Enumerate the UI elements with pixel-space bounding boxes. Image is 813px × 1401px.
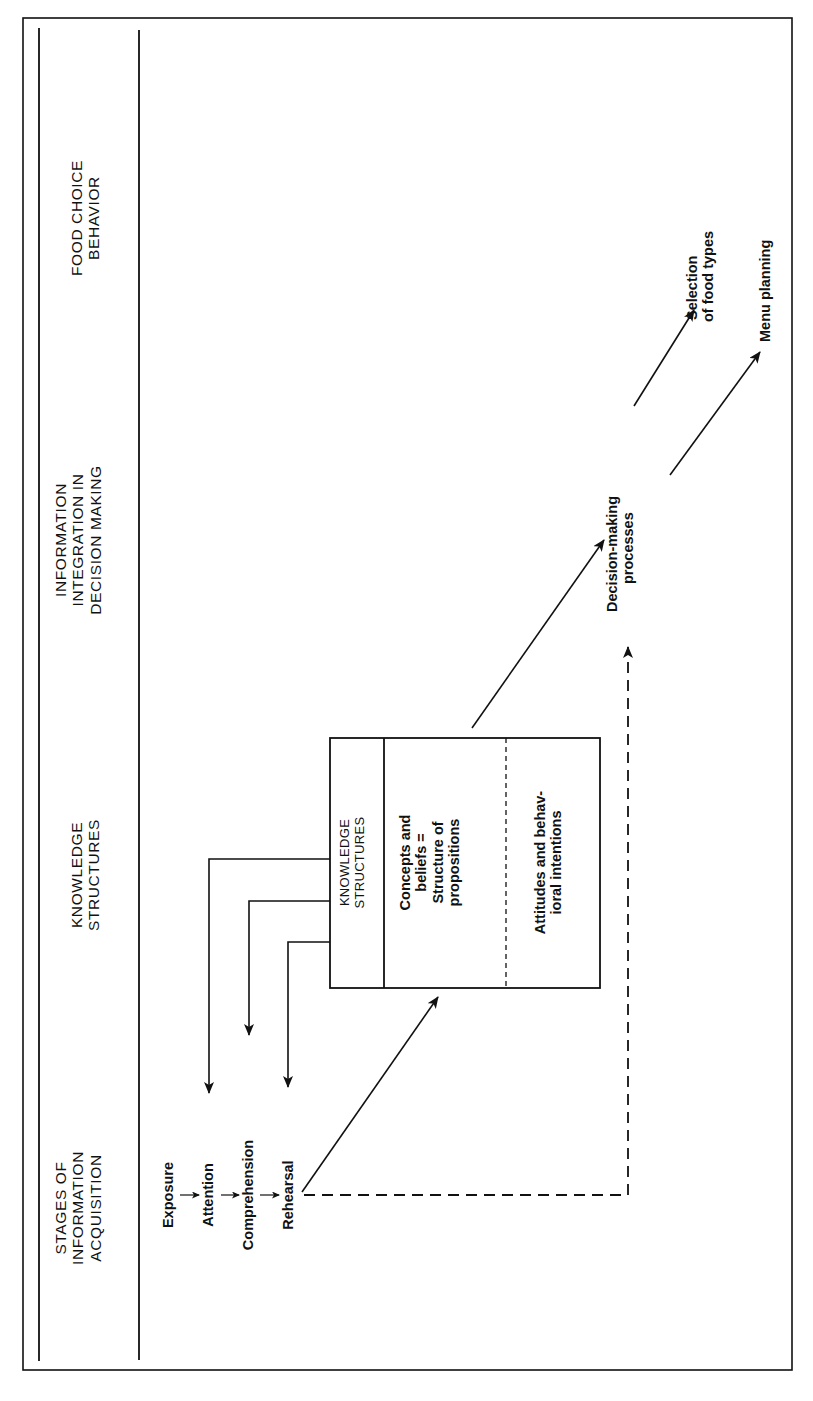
concepts-line-1: Concepts and <box>397 750 413 975</box>
feedback-arrow-comprehension <box>249 901 330 1035</box>
knowledge-box-attitudes: Attitudes and behav- ioral intentions <box>532 750 564 975</box>
knowledge-box-concepts: Concepts and beliefs = Structure of prop… <box>397 750 463 975</box>
attitudes-line-2: ioral intentions <box>548 750 564 975</box>
attitudes-line-1: Attitudes and behav- <box>532 750 548 975</box>
decision-line-2: processes <box>620 452 636 612</box>
stage-comprehension: Comprehension <box>240 1125 256 1265</box>
header-integration: INFORMATION INTEGRATION IN DECISION MAKI… <box>52 420 104 660</box>
decision-making-processes: Decision-making processes <box>604 452 636 612</box>
decision-line-1: Decision-making <box>604 452 620 612</box>
feedback-arrow-attention <box>209 859 330 1093</box>
header-knowledge-line-2: STRUCTURES <box>85 780 102 970</box>
stage-exposure-label: Exposure <box>160 1162 176 1228</box>
menu-planning-line-1: Menu planning <box>757 202 773 342</box>
header-behavior-line-1: FOOD CHOICE <box>68 118 85 318</box>
arrow-knowledge-to-decision <box>472 540 604 728</box>
header-stages-line-2: INFORMATION <box>69 1098 86 1318</box>
header-stages-line-3: ACQUISITION <box>87 1098 104 1318</box>
concepts-line-4: propositions <box>446 750 462 975</box>
knowledge-box-title: KNOWLEDGE STRUCTURES <box>338 750 367 975</box>
outcome-selection: Selection of food types <box>684 210 716 320</box>
stage-rehearsal: Rehearsal <box>280 1125 296 1265</box>
concepts-line-3: Structure of <box>430 750 446 975</box>
arrow-decision-to-menu <box>670 352 760 475</box>
stage-attention: Attention <box>200 1125 216 1265</box>
header-stages-line-1: STAGES OF <box>52 1098 69 1318</box>
concepts-line-2: beliefs = <box>413 750 429 975</box>
selection-line-1: Selection <box>684 210 700 320</box>
header-stages: STAGES OF INFORMATION ACQUISITION <box>52 1098 104 1318</box>
knowledge-box-title-line-2: STRUCTURES <box>353 750 368 975</box>
header-integration-line-3: DECISION MAKING <box>87 420 104 660</box>
arrow-decision-to-selection <box>634 310 694 406</box>
knowledge-box-title-line-1: KNOWLEDGE <box>338 750 353 975</box>
header-behavior-line-2: BEHAVIOR <box>85 118 102 318</box>
outcome-menu-planning: Menu planning <box>757 202 773 342</box>
stage-comprehension-label: Comprehension <box>240 1140 256 1250</box>
stage-rehearsal-label: Rehearsal <box>280 1160 296 1229</box>
selection-line-2: of food types <box>700 210 716 332</box>
header-behavior: FOOD CHOICE BEHAVIOR <box>68 118 103 318</box>
header-knowledge: KNOWLEDGE STRUCTURES <box>68 780 103 970</box>
stage-exposure: Exposure <box>160 1125 176 1265</box>
arrow-rehearsal-to-knowledge <box>302 997 438 1192</box>
header-integration-line-1: INFORMATION <box>52 420 69 660</box>
feedback-arrow-rehearsal <box>288 942 330 1087</box>
header-integration-line-2: INTEGRATION IN <box>69 420 86 660</box>
stage-attention-label: Attention <box>200 1163 216 1227</box>
header-knowledge-line-1: KNOWLEDGE <box>68 780 85 970</box>
